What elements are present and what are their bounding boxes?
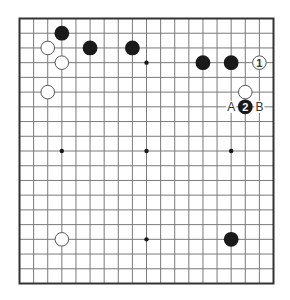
black-stone	[125, 41, 140, 56]
white-stone	[41, 41, 55, 55]
star-point	[144, 237, 148, 241]
white-stone	[55, 56, 69, 70]
point-label-a: A	[227, 100, 235, 114]
black-stone	[224, 232, 239, 247]
star-point	[60, 149, 64, 153]
white-stone	[41, 85, 55, 99]
star-point	[229, 149, 233, 153]
move-number: 1	[256, 57, 262, 69]
black-stone-icon	[54, 26, 69, 41]
move-number: 2	[242, 101, 248, 113]
point-label-b: B	[255, 100, 263, 114]
white-stone-icon	[238, 85, 252, 99]
white-stone	[238, 85, 252, 99]
white-stone-icon	[41, 41, 55, 55]
black-stone-icon	[83, 41, 98, 56]
black-stone	[196, 55, 211, 70]
star-point	[144, 60, 148, 64]
black-stone-icon	[224, 232, 239, 247]
black-stone	[224, 55, 239, 70]
black-stone-icon	[196, 55, 211, 70]
white-stone-icon	[55, 233, 69, 247]
black-stone-move-2: 2	[238, 99, 253, 114]
white-stone	[55, 233, 69, 247]
black-stone	[54, 26, 69, 41]
white-stone-icon	[41, 85, 55, 99]
black-stone	[83, 41, 98, 56]
star-point	[144, 149, 148, 153]
white-stone-icon	[55, 56, 69, 70]
black-stone-icon	[125, 41, 140, 56]
go-board-diagram: 12 AB	[0, 0, 290, 300]
white-stone-move-1: 1	[253, 56, 267, 70]
black-stone-icon	[224, 55, 239, 70]
